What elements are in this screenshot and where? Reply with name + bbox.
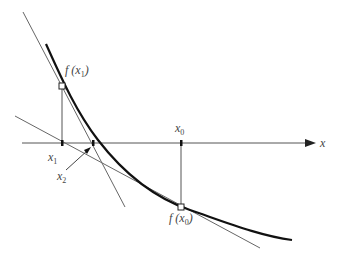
point-fx1-marker [59,83,65,89]
label-fx1: f (x1) [65,64,89,79]
x-axis-label: x [320,137,325,149]
tick-x0 [180,140,183,146]
tick-x1 [61,140,64,146]
x-axis-arrow-icon [305,139,316,147]
label-x2: x2 [57,170,66,185]
tick-x2 [92,140,95,146]
label-x0: x0 [175,122,184,137]
label-x1: x1 [48,151,57,166]
label-fx0: f (x0) [169,212,193,227]
secant-method-diagram: f (x1) x1 x2 x0 f (x0) x [0,0,337,260]
secant-line-1 [23,12,125,207]
x2-pointer-line [66,150,88,170]
point-fx0-marker [178,204,184,210]
